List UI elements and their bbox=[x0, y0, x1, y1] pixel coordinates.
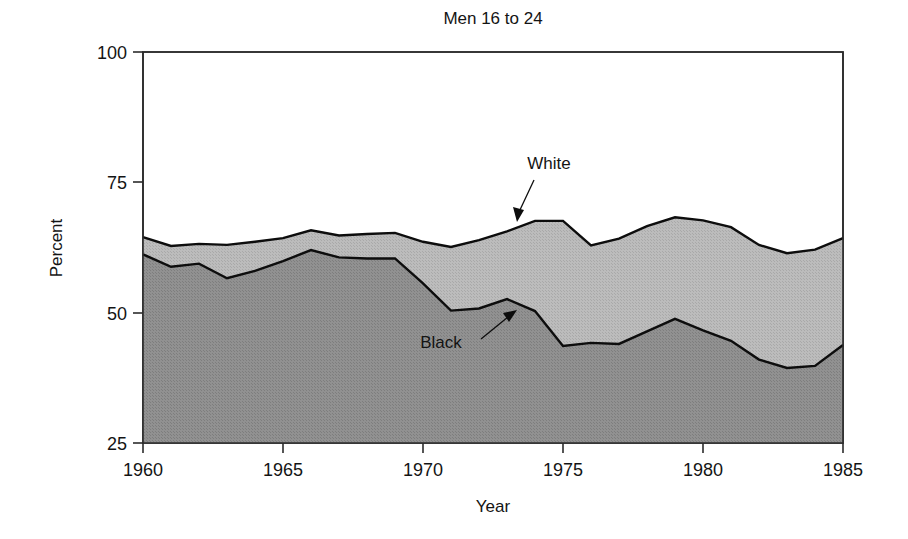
x-tick-label-1985: 1985 bbox=[823, 460, 863, 480]
x-tick-label-1960: 1960 bbox=[123, 460, 163, 480]
area-chart: Men 16 to 24 100 75 50 25 Percent 1960 1… bbox=[0, 0, 908, 539]
y-tick-label-50: 50 bbox=[107, 304, 127, 324]
black-series-label: Black bbox=[420, 333, 462, 352]
x-tick-label-1975: 1975 bbox=[543, 460, 583, 480]
y-tick-label-75: 75 bbox=[107, 173, 127, 193]
x-tick-label-1970: 1970 bbox=[403, 460, 443, 480]
x-tick-label-1980: 1980 bbox=[683, 460, 723, 480]
white-series-label: White bbox=[527, 154, 570, 173]
chart-container: Men 16 to 24 100 75 50 25 Percent 1960 1… bbox=[0, 0, 908, 539]
chart-title: Men 16 to 24 bbox=[443, 9, 542, 28]
y-tick-label-100: 100 bbox=[97, 43, 127, 63]
x-tick-label-1965: 1965 bbox=[263, 460, 303, 480]
y-tick-label-25: 25 bbox=[107, 434, 127, 454]
x-axis-title: Year bbox=[476, 497, 511, 516]
y-axis-title: Percent bbox=[47, 218, 66, 277]
series-areas bbox=[143, 217, 843, 443]
